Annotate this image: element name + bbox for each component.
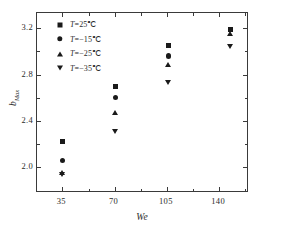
legend-item-label: T=−35℃ (70, 64, 101, 73)
legend-marker-triangle-up-icon (55, 49, 65, 59)
y-axis-title-base: b (8, 101, 18, 106)
legend-marker-triangle-down-icon (55, 63, 65, 73)
legend-item-label: T=−15℃ (70, 35, 101, 44)
data-point (112, 110, 118, 115)
legend-item-label: T=−25℃ (70, 49, 101, 58)
legend-marker-circle-icon (55, 34, 65, 44)
data-point (60, 158, 65, 163)
x-axis-tick-label: 140 (198, 196, 238, 206)
x-axis-tick-label: 105 (146, 196, 186, 206)
data-point (59, 172, 65, 177)
legend: T=25℃T=−15℃T=−25℃T=−35℃ (55, 19, 101, 74)
legend-item-label: T=25℃ (70, 20, 96, 29)
x-axis-tick-label: 70 (94, 196, 134, 206)
data-point (112, 129, 118, 134)
data-point (227, 44, 233, 49)
legend-item: T=−15℃ (55, 34, 101, 45)
y-axis-tick-label: 3.2 (3, 22, 33, 32)
data-point (60, 139, 65, 144)
legend-item: T=−25℃ (55, 48, 101, 59)
plot-area: T=25℃T=−15℃T=−25℃T=−35℃ (36, 12, 248, 192)
y-axis-tick-label: 2.8 (3, 69, 33, 79)
legend-item: T=−35℃ (55, 63, 101, 74)
data-point (113, 95, 118, 100)
y-axis-title-subscript: Max (13, 90, 20, 102)
data-point (166, 53, 171, 58)
y-axis-tick-label: 2.4 (3, 115, 33, 125)
legend-marker-square-icon (55, 20, 65, 30)
x-axis-tick-label: 35 (41, 196, 81, 206)
data-point (227, 31, 233, 36)
scatter-chart-figure: bMax 2.02.42.83.2 T=25℃T=−15℃T=−25℃T=−35… (0, 0, 284, 238)
x-axis-title: We (0, 212, 284, 222)
data-point (113, 84, 118, 89)
y-axis-tick-label: 2.0 (3, 161, 33, 171)
data-point (165, 80, 171, 85)
legend-item: T=25℃ (55, 19, 101, 30)
data-point (166, 43, 171, 48)
data-point (165, 62, 171, 67)
